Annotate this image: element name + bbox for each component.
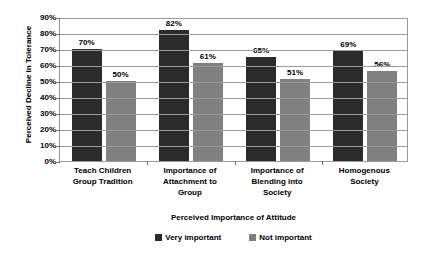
y-tickmark — [56, 162, 60, 163]
gridline — [60, 98, 407, 99]
y-tick-label: 10% — [22, 142, 56, 150]
x-axis-category-labels: Teach ChildrenGroup TraditionImportance … — [59, 165, 408, 207]
y-axis-tick-labels: 0%10%20%30%40%50%60%70%80%90% — [22, 18, 56, 162]
y-tickmark — [56, 18, 60, 19]
bar-value-label: 69% — [327, 40, 369, 49]
gridline — [60, 146, 407, 147]
y-tick-label: 40% — [22, 94, 56, 102]
x-category-label-line: Group Tradition — [59, 176, 146, 187]
y-tick-label: 50% — [22, 78, 56, 86]
bar-value-label: 82% — [153, 19, 195, 28]
x-axis-title: Perceived Importance of Attitude — [59, 213, 408, 222]
gridline — [60, 34, 407, 35]
y-tickmark — [56, 82, 60, 83]
x-category-label: Importance ofBlending intoSociety — [234, 165, 321, 198]
bar — [280, 79, 310, 161]
y-tickmark — [56, 34, 60, 35]
x-category-label-line: Teach Children — [59, 165, 146, 176]
legend-swatch-icon — [249, 234, 256, 241]
gridline — [60, 66, 407, 67]
x-category-label-line: Importance of — [146, 165, 233, 176]
x-category-label-line: Homogenous — [321, 165, 408, 176]
bar — [367, 71, 397, 161]
bar — [106, 81, 136, 161]
bar-value-label: 70% — [66, 38, 108, 47]
legend-item[interactable]: Very important — [155, 233, 221, 242]
gridline — [60, 130, 407, 131]
x-category-label: Teach ChildrenGroup Tradition — [59, 165, 146, 187]
y-tick-label: 0% — [22, 158, 56, 166]
gridline — [60, 50, 407, 51]
y-tick-label: 60% — [22, 62, 56, 70]
bars-layer: 70%50%82%61%65%51%69%56% — [60, 19, 407, 161]
y-tickmark — [56, 114, 60, 115]
bar-value-label: 51% — [274, 68, 316, 77]
bar-value-label: 61% — [187, 52, 229, 61]
y-tickmark — [56, 66, 60, 67]
legend-item[interactable]: Not important — [249, 233, 311, 242]
bar — [333, 51, 363, 161]
x-category-label-line: Society — [234, 187, 321, 198]
x-category-label-line: Importance of — [234, 165, 321, 176]
y-tick-label: 20% — [22, 126, 56, 134]
x-category-label: Importance ofAttachment toGroup — [146, 165, 233, 198]
chart-legend: Very importantNot important — [59, 233, 408, 242]
y-tickmark — [56, 98, 60, 99]
y-tickmark — [56, 50, 60, 51]
y-tick-label: 70% — [22, 46, 56, 54]
bar-value-label: 50% — [100, 70, 142, 79]
legend-label: Not important — [259, 233, 311, 242]
bar-chart: Perceived Decline in Tolerance 0%10%20%3… — [0, 0, 427, 261]
plot-area: 70%50%82%61%65%51%69%56% — [59, 18, 408, 162]
y-tick-label: 80% — [22, 30, 56, 38]
x-category-label-line: Society — [321, 176, 408, 187]
x-category-label: HomogenousSociety — [321, 165, 408, 187]
legend-label: Very important — [165, 233, 221, 242]
legend-swatch-icon — [155, 234, 162, 241]
y-tickmark — [56, 130, 60, 131]
gridline — [60, 82, 407, 83]
y-tickmark — [56, 146, 60, 147]
y-tick-label: 30% — [22, 110, 56, 118]
y-tick-label: 90% — [22, 14, 56, 22]
x-category-label-line: Blending into — [234, 176, 321, 187]
x-category-label-line: Attachment to — [146, 176, 233, 187]
bar-value-label: 56% — [361, 60, 403, 69]
x-category-label-line: Group — [146, 187, 233, 198]
gridline — [60, 114, 407, 115]
